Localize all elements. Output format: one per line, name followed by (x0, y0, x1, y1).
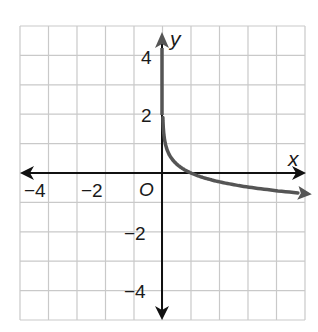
x-tick-label: −2 (81, 181, 103, 200)
y-tick-label: −4 (124, 282, 146, 301)
y-tick-label: 2 (141, 106, 152, 125)
graph (0, 0, 318, 332)
x-tick-label: −4 (24, 181, 46, 200)
y-tick-label: 4 (141, 48, 152, 67)
y-tick-label: −2 (124, 224, 146, 243)
x-axis-label: x (288, 148, 299, 169)
origin-label: O (139, 180, 154, 199)
curve (155, 32, 312, 200)
y-axis-label: y (170, 28, 181, 49)
